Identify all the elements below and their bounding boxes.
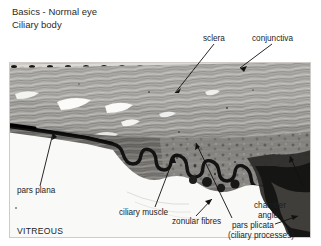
title-line-1: Basics - Normal eye xyxy=(12,6,97,19)
figure-page: Basics - Normal eye Ciliary body xyxy=(0,0,321,246)
title-line-2: Ciliary body xyxy=(12,19,97,32)
label-conjunctiva: conjunctiva xyxy=(252,34,293,44)
label-vitreous: VITREOUS xyxy=(17,226,63,236)
label-chamber-angle-line2: angle xyxy=(258,211,278,221)
label-ciliary-muscle: ciliary muscle xyxy=(119,208,168,218)
label-pars-plicata: pars plicata xyxy=(232,221,274,231)
speck-artifact xyxy=(15,207,17,209)
page-title: Basics - Normal eye Ciliary body xyxy=(12,6,97,31)
label-zonular-fibres: zonular fibres xyxy=(172,217,221,227)
label-pars-plana: pars plana xyxy=(17,186,55,196)
label-ciliary-processes: (ciliary processes) xyxy=(228,231,294,241)
label-sclera: sclera xyxy=(203,34,225,44)
label-chamber-angle-line1: chamber xyxy=(254,201,286,211)
